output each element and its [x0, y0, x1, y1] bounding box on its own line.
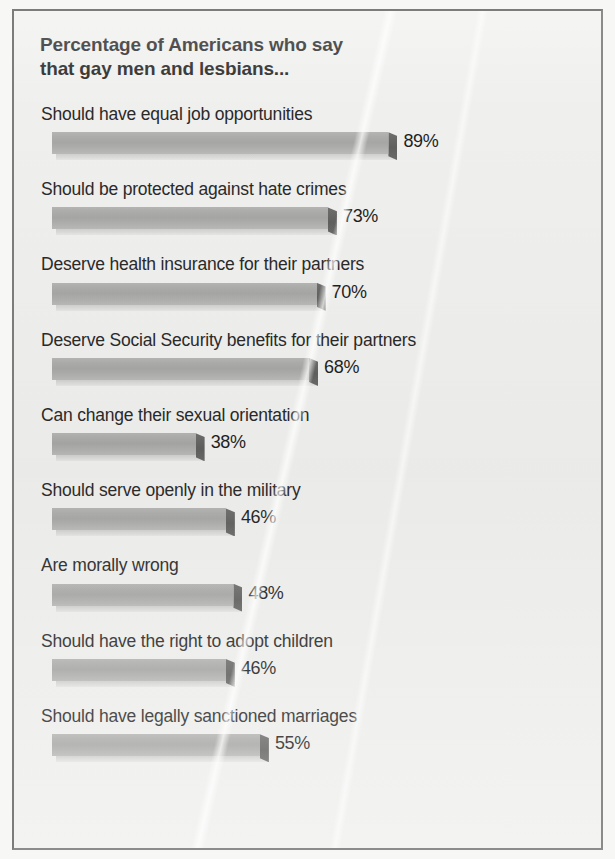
bar-bottom-face — [56, 756, 268, 762]
bar-end-cap — [226, 659, 235, 687]
bar-bottom-face — [56, 305, 325, 311]
bar-end-cap — [226, 508, 235, 536]
bar-end-cap — [317, 283, 326, 311]
bar-end-cap — [388, 132, 397, 160]
bar-track: 68% — [40, 356, 583, 394]
bar-face — [52, 132, 388, 154]
bar-category-label: Should be protected against hate crimes — [41, 180, 583, 199]
bar-end-cap — [309, 358, 318, 386]
bar-face — [52, 734, 260, 756]
chart-frame: Percentage of Americans who say that gay… — [12, 9, 603, 850]
bar-value-label: 38% — [211, 432, 246, 453]
bar-category-label: Should have the right to adopt children — [41, 632, 583, 651]
bar-track: 55% — [40, 732, 583, 770]
bar-end-cap — [328, 207, 337, 235]
bar-face — [52, 584, 233, 606]
bar-category-label: Should have equal job opportunities — [41, 105, 583, 124]
bar-face — [52, 508, 226, 530]
bar-end-cap — [260, 734, 269, 762]
bar-end-cap — [196, 433, 205, 461]
bar-category-label: Deserve health insurance for their partn… — [41, 255, 583, 274]
bar-2[interactable] — [52, 281, 317, 311]
chart-page: Percentage of Americans who say that gay… — [0, 0, 615, 859]
bar-7[interactable] — [52, 657, 226, 687]
bar-value-label: 68% — [324, 357, 359, 378]
bar-category-label: Deserve Social Security benefits for the… — [41, 331, 583, 350]
bar-3[interactable] — [52, 356, 309, 386]
bar-end-cap — [233, 584, 242, 612]
bar-bottom-face — [56, 681, 234, 687]
bar-bottom-face — [56, 455, 204, 461]
bar-track: 73% — [40, 205, 583, 243]
bar-row: Should be protected against hate crimes … — [40, 180, 583, 243]
bar-value-label: 89% — [403, 131, 438, 152]
bar-row: Are morally wrong 48% — [40, 556, 583, 619]
bar-row: Deserve health insurance for their partn… — [40, 255, 583, 318]
bar-row: Deserve Social Security benefits for the… — [40, 331, 583, 394]
bar-track: 70% — [40, 281, 583, 319]
bar-value-label: 46% — [241, 658, 276, 679]
bar-value-label: 73% — [343, 206, 378, 227]
bar-row: Can change their sexual orientation 38% — [40, 406, 583, 469]
bar-bottom-face — [56, 380, 317, 386]
bar-0[interactable] — [52, 130, 388, 160]
bar-8[interactable] — [52, 732, 260, 762]
bar-face — [52, 433, 196, 455]
chart-title: Percentage of Americans who say that gay… — [40, 33, 583, 81]
bar-category-label: Are morally wrong — [41, 556, 583, 575]
bar-row: Should have the right to adopt children … — [40, 632, 583, 695]
bar-face — [52, 659, 226, 681]
bar-rows: Should have equal job opportunities 89% … — [40, 105, 583, 770]
bar-bottom-face — [56, 530, 234, 536]
bar-6[interactable] — [52, 582, 233, 612]
bar-value-label: 46% — [241, 507, 276, 528]
bar-track: 46% — [40, 506, 583, 544]
bar-track: 46% — [40, 657, 583, 695]
bar-value-label: 70% — [332, 282, 367, 303]
bar-category-label: Can change their sexual orientation — [41, 406, 583, 425]
bar-value-label: 55% — [275, 733, 310, 754]
bar-bottom-face — [56, 229, 336, 235]
bar-bottom-face — [56, 606, 241, 612]
bar-bottom-face — [56, 154, 396, 160]
bar-value-label: 48% — [248, 583, 283, 604]
bar-track: 89% — [40, 130, 583, 168]
bar-category-label: Should serve openly in the military — [41, 481, 583, 500]
bar-face — [52, 207, 328, 229]
bar-track: 48% — [40, 582, 583, 620]
bar-row: Should have equal job opportunities 89% — [40, 105, 583, 168]
bar-face — [52, 358, 309, 380]
bar-face — [52, 283, 317, 305]
bar-row: Should serve openly in the military 46% — [40, 481, 583, 544]
bar-track: 38% — [40, 431, 583, 469]
bar-4[interactable] — [52, 431, 196, 461]
bar-5[interactable] — [52, 506, 226, 536]
bar-1[interactable] — [52, 205, 328, 235]
bar-row: Should have legally sanctioned marriages… — [40, 707, 583, 770]
chart-content: Percentage of Americans who say that gay… — [14, 11, 601, 848]
bar-category-label: Should have legally sanctioned marriages — [41, 707, 583, 726]
